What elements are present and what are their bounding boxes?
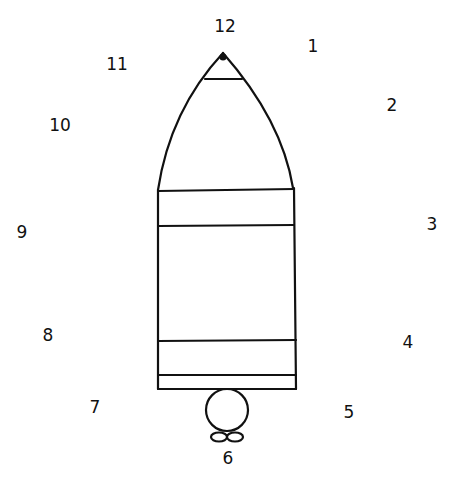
band-2 xyxy=(158,225,294,226)
clock-number-3: 3 xyxy=(427,214,438,234)
band-3 xyxy=(158,340,296,341)
clock-number-2: 2 xyxy=(387,95,398,115)
nose-cone-right xyxy=(223,53,293,188)
exhaust-loop-right xyxy=(227,433,243,442)
exhaust-loop-left xyxy=(211,433,227,442)
nose-cone-left xyxy=(158,53,223,190)
clock-number-1: 1 xyxy=(308,36,319,56)
clock-number-11: 11 xyxy=(106,54,128,74)
body-right xyxy=(294,188,296,389)
engine-circle xyxy=(206,389,248,431)
clock-number-4: 4 xyxy=(403,332,414,352)
clock-number-6: 6 xyxy=(223,448,234,468)
nose-tip-dot xyxy=(220,54,227,61)
clock-number-8: 8 xyxy=(43,325,54,345)
clock-number-10: 10 xyxy=(49,115,71,135)
clock-number-7: 7 xyxy=(90,397,101,417)
clock-number-9: 9 xyxy=(17,222,28,242)
band-1 xyxy=(158,189,294,191)
clock-number-5: 5 xyxy=(344,402,355,422)
clock-number-12: 12 xyxy=(214,16,236,36)
rocket-drawing xyxy=(0,0,455,479)
